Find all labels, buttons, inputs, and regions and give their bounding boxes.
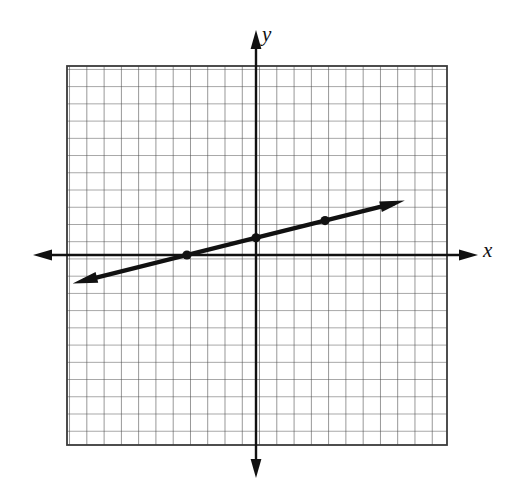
- y-axis-label: y: [262, 24, 271, 45]
- data-point: [320, 216, 329, 225]
- data-point: [251, 233, 260, 242]
- data-point: [182, 250, 191, 259]
- x-axis-label: x: [483, 240, 492, 261]
- graph-canvas: [0, 0, 523, 502]
- coordinate-plane-figure: y x: [0, 0, 523, 502]
